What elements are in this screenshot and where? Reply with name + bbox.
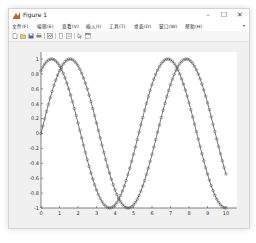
- x-tick-label: 3: [95, 210, 98, 216]
- y-tick-label: 0: [36, 130, 39, 136]
- x-tick-label: 4: [113, 210, 116, 216]
- y-tick-label: 0.4: [31, 101, 39, 107]
- y-tick-label: -0.6: [29, 175, 39, 181]
- y-tick-label: -0.2: [29, 145, 39, 151]
- y-tick-label: 1: [36, 56, 39, 62]
- y-tick-label: -1: [34, 205, 39, 211]
- x-tick-label: 8: [187, 210, 190, 216]
- x-tick-label: 2: [76, 210, 79, 216]
- y-tick-label: 0.6: [31, 86, 39, 92]
- x-tick-label: 9: [206, 210, 209, 216]
- plot-axes[interactable]: 01234567891010.80.60.40.20-0.2-0.4-0.6-0…: [0, 0, 256, 243]
- x-tick-label: 10: [223, 210, 229, 216]
- x-tick-label: 6: [150, 210, 153, 216]
- axes-background: [41, 52, 237, 208]
- y-tick-label: 0.8: [31, 71, 39, 77]
- x-tick-label: 1: [58, 210, 61, 216]
- x-tick-label: 5: [132, 210, 135, 216]
- x-tick-label: 7: [169, 210, 172, 216]
- x-tick-label: 0: [39, 210, 42, 216]
- y-tick-label: -0.8: [29, 190, 39, 196]
- y-tick-label: -0.4: [29, 160, 39, 166]
- y-tick-label: 0.2: [31, 115, 39, 121]
